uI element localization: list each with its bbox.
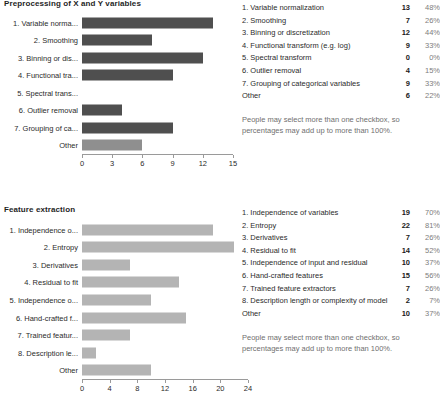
bar-row: 1. Independence o... [82, 221, 248, 239]
table-row-percent: 26% [414, 284, 440, 293]
bar-row: 4. Functional tra... [82, 67, 233, 85]
axis-tick-label: 16 [188, 384, 196, 393]
table-row-percent: 33% [414, 79, 440, 88]
table-row: 6. Hand-crafted features1556% [242, 270, 438, 283]
table-row-count: 4 [388, 66, 410, 75]
chart-block-feature-extraction: Feature extraction 1. Independence o...2… [0, 205, 440, 418]
table-row: 1. Variable normalization1348% [242, 2, 438, 15]
table-row-count: 10 [388, 258, 410, 267]
bar-category-label: 7. Trained featur... [18, 331, 78, 340]
bar-category-label: 5. Spectral trans... [17, 88, 78, 97]
bar-category-label: 8. Description le... [18, 348, 78, 357]
bar-row: 2. Entropy [82, 239, 248, 257]
bar-row: 1. Variable norma... [82, 14, 233, 32]
table-row-label: 5. Independence of input and residual [242, 258, 368, 267]
bar [82, 52, 203, 63]
bar-row: Other [82, 361, 248, 379]
table-row: 4. Functional transform (e.g. log)933% [242, 40, 438, 53]
axis-tick-label: 4 [108, 384, 112, 393]
bar [82, 17, 213, 28]
table-row-label: 5. Spectral transform [242, 53, 312, 62]
bar-plot-preprocessing: 1. Variable norma...2. Smoothing3. Binni… [82, 14, 233, 169]
bar-row: 3. Derivatives [82, 256, 248, 274]
bar [82, 259, 130, 270]
table-row: 7. Grouping of categorical variables933% [242, 78, 438, 91]
table-row-count: 10 [388, 309, 410, 318]
table-row-percent: 15% [414, 66, 440, 75]
table-row: 5. Independence of input and residual103… [242, 257, 438, 270]
bar-row: 3. Binning or dis... [82, 49, 233, 67]
axis-tick [248, 380, 249, 383]
axis-tick-label: 15 [229, 159, 237, 168]
table-row: Other622% [242, 90, 438, 103]
bar-row: 2. Smoothing [82, 32, 233, 50]
bar-category-label: 1. Variable norma... [13, 18, 78, 27]
table-row-percent: 70% [414, 208, 440, 217]
bar-category-label: 3. Binning or dis... [18, 53, 78, 62]
table-row-count: 19 [388, 208, 410, 217]
axis-tick-label: 6 [140, 159, 144, 168]
table-row-label: 2. Entropy [242, 221, 276, 230]
table-row-label: 6. Hand-crafted features [242, 271, 323, 280]
bar [82, 140, 142, 151]
chart-block-preprocessing: Preprocessing of X and Y variables 1. Va… [0, 0, 440, 190]
chart-title: Preprocessing of X and Y variables [4, 0, 141, 8]
table-row-count: 0 [388, 53, 410, 62]
table-row: 2. Entropy2281% [242, 220, 438, 233]
axis-tick [82, 380, 83, 383]
bar [82, 224, 213, 235]
table-row-label: 8. Description length or complexity of m… [242, 296, 388, 305]
axis-tick-label: 12 [161, 384, 169, 393]
bar-category-label: 4. Residual to fit [24, 278, 78, 287]
table-row: 3. Derivatives726% [242, 232, 438, 245]
bar-row: 4. Residual to fit [82, 274, 248, 292]
axis-tick [142, 155, 143, 158]
bar-category-label: 6. Hand-crafted f... [16, 313, 78, 322]
bar-category-label: 2. Smoothing [34, 36, 78, 45]
bar-row: 5. Independence o... [82, 291, 248, 309]
bar-row: 8. Description le... [82, 344, 248, 362]
table-row-count: 22 [388, 221, 410, 230]
table-row-label: 7. Trained feature extractors [242, 284, 336, 293]
axis-tick-label: 12 [199, 159, 207, 168]
axis-tick [110, 380, 111, 383]
table-row-count: 6 [388, 91, 410, 100]
axis-tick [82, 155, 83, 158]
table-row-percent: 37% [414, 258, 440, 267]
survey-results-page: Preprocessing of X and Y variables 1. Va… [0, 0, 440, 418]
axis-tick [165, 380, 166, 383]
table-row: 2. Smoothing726% [242, 15, 438, 28]
axis-tick-label: 20 [216, 384, 224, 393]
table-row: 1. Independence of variables1970% [242, 207, 438, 220]
table-row: 3. Binning or discretization1244% [242, 27, 438, 40]
bar [82, 122, 173, 133]
bar [82, 35, 152, 46]
bar-category-label: Other [59, 366, 78, 375]
bar-row: 6. Outlier removal [82, 102, 233, 120]
table-row-count: 2 [388, 296, 410, 305]
bar-row: 7. Trained featur... [82, 326, 248, 344]
table-row-percent: 22% [414, 91, 440, 100]
disclaimer-note: People may select more than one checkbox… [242, 115, 438, 136]
table-row-label: 4. Functional transform (e.g. log) [242, 41, 350, 50]
table-row-count: 13 [388, 3, 410, 12]
table-row-count: 12 [388, 28, 410, 37]
disclaimer-note: People may select more than one checkbox… [242, 333, 438, 354]
table-row-label: Other [242, 91, 261, 100]
table-row-label: 3. Binning or discretization [242, 28, 330, 37]
table-row: 5. Spectral transform00% [242, 52, 438, 65]
table-row-count: 9 [388, 41, 410, 50]
table-row-percent: 26% [414, 16, 440, 25]
bar [82, 365, 151, 376]
axis-tick [203, 155, 204, 158]
table-row-percent: 52% [414, 246, 440, 255]
axis-tick-label: 9 [171, 159, 175, 168]
table-row-label: 1. Independence of variables [242, 208, 338, 217]
table-row-count: 7 [388, 233, 410, 242]
chart-title: Feature extraction [4, 205, 75, 214]
table-row-percent: 7% [414, 296, 440, 305]
axis-tick [233, 155, 234, 158]
axis-tick [112, 155, 113, 158]
table-row-label: 1. Variable normalization [242, 3, 324, 12]
table-row: 4. Residual to fit1452% [242, 245, 438, 258]
